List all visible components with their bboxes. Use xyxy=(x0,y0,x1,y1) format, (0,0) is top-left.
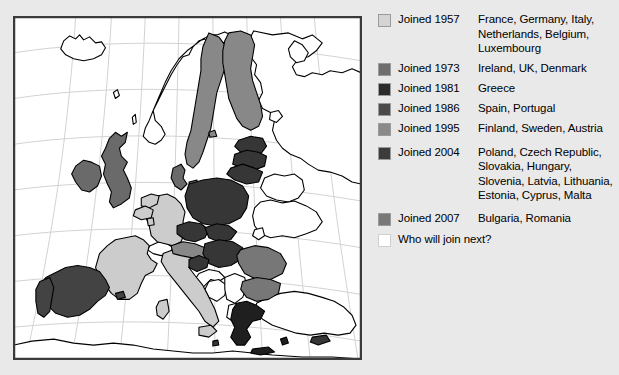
country-poland xyxy=(185,178,249,226)
legend-year-1981: Joined 1981 xyxy=(398,81,478,96)
legend-swatch-1986 xyxy=(378,103,391,116)
legend-row-1981: Joined 1981 Greece xyxy=(378,81,614,96)
legend-swatch-2007 xyxy=(378,213,391,226)
legend-countries-1957: France, Germany, Italy, Netherlands, Bel… xyxy=(478,12,614,56)
island-rhodes xyxy=(280,337,288,345)
legend-year-1995: Joined 1995 xyxy=(398,121,478,136)
map-legend: Joined 1957 France, Germany, Italy, Neth… xyxy=(378,12,614,362)
country-luxembourg xyxy=(147,218,154,226)
legend-swatch-1981 xyxy=(378,83,391,96)
legend-row-1995: Joined 1995 Finland, Sweden, Austria xyxy=(378,121,614,136)
legend-label-future: Who will join next? xyxy=(398,232,491,247)
legend-row-2004: Joined 2004 Poland, Czech Republic, Slov… xyxy=(378,145,614,203)
legend-swatch-future xyxy=(378,234,391,247)
legend-year-2004: Joined 2004 xyxy=(398,145,478,160)
eu-2007-countries xyxy=(237,246,287,302)
island-aland xyxy=(209,130,217,137)
legend-countries-2004: Poland, Czech Republic, Slovakia, Hungar… xyxy=(478,145,614,203)
legend-year-1957: Joined 1957 xyxy=(398,12,478,27)
legend-row-1986: Joined 1986 Spain, Portugal xyxy=(378,101,614,116)
europe-map-svg xyxy=(14,17,361,359)
eu-enlargement-figure: Joined 1957 France, Germany, Italy, Neth… xyxy=(0,0,619,375)
legend-countries-1981: Greece xyxy=(478,81,614,96)
legend-row-future: Who will join next? xyxy=(378,232,614,247)
legend-row-1973: Joined 1973 Ireland, UK, Denmark xyxy=(378,61,614,76)
legend-row-1957: Joined 1957 France, Germany, Italy, Neth… xyxy=(378,12,614,56)
legend-swatch-1995 xyxy=(378,123,391,136)
legend-year-1986: Joined 1986 xyxy=(398,101,478,116)
legend-countries-1986: Spain, Portugal xyxy=(478,101,614,116)
legend-countries-1995: Finland, Sweden, Austria xyxy=(478,121,614,136)
legend-countries-2007: Bulgaria, Romania xyxy=(478,211,614,226)
legend-countries-1973: Ireland, UK, Denmark xyxy=(478,61,614,76)
island-balearics xyxy=(115,291,125,299)
legend-year-1973: Joined 1973 xyxy=(398,61,478,76)
legend-swatch-1973 xyxy=(378,63,391,76)
country-malta xyxy=(213,340,219,346)
legend-swatch-1957 xyxy=(378,14,391,27)
legend-swatch-2004 xyxy=(378,147,391,160)
legend-year-2007: Joined 2007 xyxy=(398,211,478,226)
europe-map-panel xyxy=(13,16,362,360)
legend-row-2007: Joined 2007 Bulgaria, Romania xyxy=(378,211,614,226)
